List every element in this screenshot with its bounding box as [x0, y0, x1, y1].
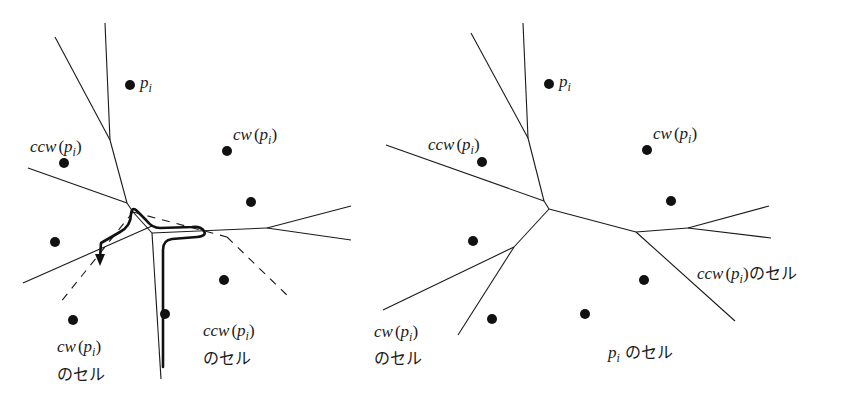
svg-text:ccw(pi): ccw(pi): [203, 321, 255, 343]
site: [487, 314, 497, 324]
voronoi-edge: [544, 201, 549, 209]
svg-text:cw(pi): cw(pi): [374, 322, 418, 344]
site: [160, 309, 170, 319]
svg-text:cw(pi): cw(pi): [57, 337, 101, 359]
right-diagram: pi ccw(pi) cw(pi) ccw(pi)のセル cw(pi) のセル …: [374, 23, 797, 368]
voronoi-edge: [105, 23, 110, 140]
label-cw-cell: cw(pi) のセル: [374, 322, 422, 368]
label-ccw-cell: ccw(pi) のセル: [203, 321, 255, 368]
left-sites: [50, 80, 256, 325]
voronoi-edge: [688, 228, 771, 238]
left-traversal-path: [95, 209, 205, 367]
label-cw-cell: cw(pi) のセル: [57, 337, 105, 384]
site: [50, 237, 60, 247]
label-pi-cell: pi のセル: [607, 343, 673, 365]
left-diagram: pi ccw(pi) cw(pi) cw(pi) のセル ccw(pi) のセル: [23, 23, 351, 384]
label-cw-pi: cw(pi): [653, 124, 697, 146]
label-ccw-pi: ccw(pi): [428, 135, 480, 157]
site-ccw-pi: [59, 158, 69, 168]
voronoi-edge: [23, 226, 152, 283]
voronoi-edge: [28, 168, 127, 203]
voronoi-edge: [267, 228, 351, 240]
right-sites: [468, 79, 676, 324]
site-cw-pi: [222, 146, 232, 156]
site-pi: [544, 79, 554, 89]
svg-text:のセル: のセル: [374, 349, 422, 368]
dashed-bisector: [227, 237, 290, 298]
voronoi-edge: [110, 140, 127, 203]
label-ccw-cell: ccw(pi)のセル: [697, 264, 797, 286]
label-pi: pi: [558, 72, 571, 94]
voronoi-edge: [471, 33, 528, 138]
left-voronoi-edges: [23, 23, 351, 379]
site-cw-pi: [642, 145, 652, 155]
voronoi-edge: [688, 206, 769, 228]
arrowhead-icon: [95, 254, 105, 266]
voronoi-edge: [549, 209, 636, 232]
right-voronoi-edges: [383, 23, 771, 335]
voronoi-edge: [514, 209, 549, 247]
site: [666, 196, 676, 206]
svg-text:のセル: のセル: [203, 349, 251, 368]
site: [639, 275, 649, 285]
voronoi-edge: [55, 37, 110, 140]
voronoi-edge: [152, 233, 161, 379]
label-cw-pi: cw(pi): [233, 125, 277, 147]
voronoi-edge: [267, 206, 351, 228]
voronoi-edge: [523, 23, 528, 138]
voronoi-edge: [636, 228, 688, 232]
left-dashed-lines: [60, 212, 290, 303]
voronoi-edge: [528, 138, 544, 201]
site: [219, 275, 229, 285]
site-pi: [125, 80, 135, 90]
site: [468, 236, 478, 246]
dashed-bisector: [133, 212, 227, 237]
label-pi: pi: [139, 73, 152, 95]
svg-text:のセル: のセル: [57, 365, 105, 384]
site: [246, 197, 256, 207]
voronoi-figure: pi ccw(pi) cw(pi) cw(pi) のセル ccw(pi) のセル: [0, 0, 842, 395]
label-ccw-pi: ccw(pi): [30, 137, 82, 159]
site: [68, 315, 78, 325]
site-ccw-pi: [477, 157, 487, 167]
site: [580, 309, 590, 319]
